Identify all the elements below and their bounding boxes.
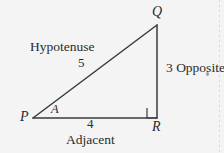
triangle-figure	[0, 0, 224, 153]
right-angle-marker-icon	[147, 108, 157, 118]
angle-label-a: A	[51, 103, 59, 116]
vertex-label-p: P	[20, 110, 29, 124]
hypotenuse-word-label: Hypotenuse	[30, 40, 95, 54]
vertex-label-r: R	[152, 120, 161, 134]
scan-speck-artifact	[206, 72, 209, 76]
hypotenuse-length-label: 5	[78, 56, 85, 69]
adjacent-length-label: 4	[87, 117, 94, 130]
vertex-label-q: Q	[152, 5, 162, 19]
adjacent-word-label: Adjacent	[66, 133, 115, 147]
scan-edge-artifact	[219, 0, 220, 153]
opposite-side-label: 3 Opposite	[166, 61, 224, 75]
